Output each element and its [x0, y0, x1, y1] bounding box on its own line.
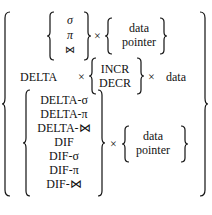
- op-project: π: [58, 28, 82, 42]
- target-pointer: pointer: [114, 35, 164, 49]
- target-data: data: [128, 129, 178, 143]
- times-sign: ×: [78, 70, 85, 84]
- times-sign: ×: [148, 70, 155, 84]
- op-dif: DIF: [32, 135, 96, 149]
- op-dif-join: DIF-⋈: [32, 177, 96, 191]
- row1-ops-left-brace: [47, 12, 55, 60]
- op-dif-project: DIF-π: [32, 163, 96, 177]
- row3-target-right-brace: [181, 126, 189, 162]
- times-sign: ×: [110, 137, 117, 151]
- op-select: σ: [58, 13, 82, 27]
- op-delta-project: DELTA-π: [32, 107, 96, 121]
- row1-target-right-brace: [160, 18, 168, 54]
- outer-left-brace: [2, 12, 12, 196]
- outer-right-brace: [200, 12, 210, 196]
- op-join: ⋈: [58, 43, 82, 57]
- target-data: data: [166, 70, 186, 84]
- op-delta-join: DELTA-⋈: [32, 121, 96, 135]
- row3-ops-left-brace: [23, 90, 31, 196]
- row1-target-left-brace: [105, 18, 113, 54]
- row3-ops-list: DELTA-σ DELTA-π DELTA-⋈ DIF DIF-σ DIF-π …: [32, 93, 96, 191]
- row2-ops-right-brace: [137, 58, 145, 94]
- target-pointer: pointer: [128, 143, 178, 157]
- op-incr: INCR: [96, 62, 134, 76]
- row1-ops-right-brace: [84, 12, 92, 60]
- op-dif-select: DIF-σ: [32, 149, 96, 163]
- row3-ops-right-brace: [98, 90, 106, 196]
- op-delta-select: DELTA-σ: [32, 93, 96, 107]
- op-decr: DECR: [96, 76, 134, 90]
- delta-label: DELTA: [20, 70, 57, 84]
- times-sign: ×: [94, 29, 101, 43]
- target-data: data: [114, 21, 164, 35]
